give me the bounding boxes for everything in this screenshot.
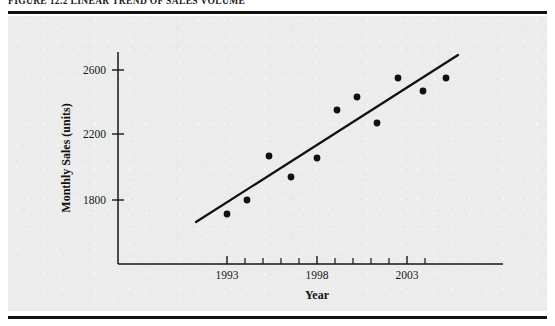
data-point (354, 94, 361, 101)
y-axis-tick-labels: 2600 2200 1800 (83, 64, 106, 206)
figure-rule-bottom (8, 316, 547, 319)
data-point (395, 75, 402, 82)
x-axis-major-ticks (227, 256, 407, 264)
x-tick-label-1998: 1998 (306, 269, 329, 281)
x-axis-tick-labels: 1993 1998 2003 (216, 269, 419, 281)
figure-caption: FIGURE 12.2 LINEAR TREND OF SALES VOLUME (8, 0, 245, 6)
data-point (334, 107, 341, 114)
x-tick-label-1993: 1993 (216, 269, 239, 281)
y-tick-label-2600: 2600 (83, 64, 106, 76)
data-point (266, 153, 273, 160)
figure-caption-strip: FIGURE 12.2 LINEAR TREND OF SALES VOLUME (0, 0, 555, 9)
scatter-plot: 2600 2200 1800 Monthly Sales (units) (8, 16, 547, 311)
data-point (288, 174, 295, 181)
figure-panel: 2600 2200 1800 Monthly Sales (units) (8, 16, 547, 311)
y-tick-label-2200: 2200 (83, 128, 106, 140)
data-point (443, 75, 450, 82)
data-points (224, 75, 450, 218)
caption-rule-top (8, 11, 547, 14)
data-point (314, 155, 321, 162)
x-axis-title: Year (305, 288, 330, 302)
trend-line (196, 55, 458, 222)
figure-root: FIGURE 12.2 LINEAR TREND OF SALES VOLUME… (0, 0, 555, 326)
data-point (224, 211, 231, 218)
data-point (244, 197, 251, 204)
y-tick-label-1800: 1800 (83, 194, 106, 206)
x-tick-label-2003: 2003 (396, 269, 419, 281)
x-axis-minor-ticks (245, 258, 425, 264)
data-point (374, 120, 381, 127)
y-axis-title: Monthly Sales (units) (59, 103, 73, 212)
data-point (420, 88, 427, 95)
